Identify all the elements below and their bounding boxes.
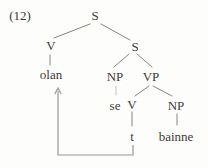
syntax-tree-figure: (12) SVSolanNPVPseVNPtbainne bbox=[0, 0, 208, 168]
tree-edge-vp-to-np-object bbox=[153, 86, 172, 96]
tree-node-olan: olan bbox=[40, 68, 62, 81]
tree-node-vp: VP bbox=[143, 70, 160, 83]
tree-node-v-upper: V bbox=[46, 39, 55, 52]
tree-edge-s-lower-to-np-subject bbox=[114, 54, 129, 67]
movement-arrow-line bbox=[58, 91, 133, 155]
tree-edge-s-top-to-s-lower bbox=[101, 24, 130, 40]
tree-node-t: t bbox=[130, 130, 134, 143]
tree-node-bainne: bainne bbox=[159, 130, 194, 143]
tree-node-v-lower: V bbox=[127, 98, 136, 111]
tree-edge-vp-to-v-lower bbox=[135, 86, 149, 96]
tree-node-np-object: NP bbox=[168, 99, 185, 112]
tree-edge-s-lower-to-vp bbox=[137, 54, 152, 67]
tree-node-se: se bbox=[110, 99, 121, 112]
tree-node-np-subject: NP bbox=[107, 70, 124, 83]
tree-edge-s-top-to-v-upper bbox=[54, 24, 90, 38]
tree-node-s-lower: S bbox=[131, 40, 138, 53]
tree-node-s-top: S bbox=[91, 9, 98, 22]
